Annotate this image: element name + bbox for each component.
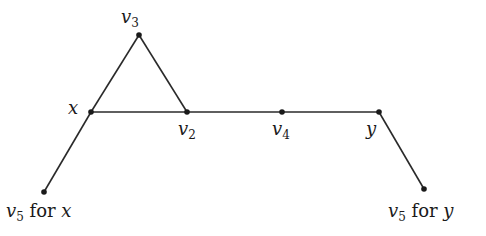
edge-v3-v2 <box>139 35 187 112</box>
graph-diagram: v3 x v2 v4 y v5 for x v5 for y <box>0 0 486 236</box>
node-v3 <box>136 32 142 38</box>
nodes <box>41 32 427 195</box>
node-x <box>88 109 94 115</box>
node-v4 <box>279 109 285 115</box>
edge-x-v3 <box>91 35 139 112</box>
edges <box>44 35 424 192</box>
node-v2 <box>184 109 190 115</box>
label-v3: v3 <box>121 8 139 26</box>
node-v5x <box>41 189 47 195</box>
label-y: y <box>366 120 376 138</box>
edge-y-v5y <box>379 112 424 189</box>
label-v2: v2 <box>178 120 196 138</box>
label-v5-for-x: v5 for x <box>6 202 72 220</box>
label-x: x <box>68 99 78 117</box>
label-v4: v4 <box>272 120 290 138</box>
edge-x-v5x <box>44 112 91 192</box>
label-v5-for-y: v5 for y <box>388 202 454 220</box>
node-v5y <box>421 186 427 192</box>
node-y <box>376 109 382 115</box>
